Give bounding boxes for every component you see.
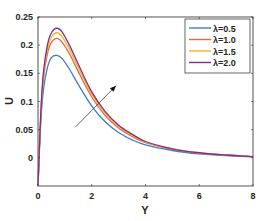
y-tick-label: 0.2 [20,40,33,50]
legend: λ=0.5λ=1.0λ=1.5λ=2.0 [185,19,250,73]
x-tick-label: 0 [35,191,40,201]
x-tick-label: 2 [89,191,94,201]
y-axis-label: U [3,97,15,105]
y-tick-label: 0.1 [20,97,33,107]
legend-entry-label: λ=1.5 [213,47,236,57]
x-tick-label: 4 [143,191,148,201]
legend-entry-label: λ=2.0 [213,58,236,68]
x-tick-label: 8 [250,191,255,201]
y-tick-label: 0 [28,153,33,163]
y-tick-label: 0.05 [15,125,33,135]
x-axis-label: Y [141,204,149,216]
y-tick-label: 0.15 [15,68,33,78]
y-tick-label: 0.25 [15,12,33,22]
legend-entry-label: λ=1.0 [213,35,236,45]
legend-entry-label: λ=0.5 [213,24,236,34]
x-tick-label: 6 [197,191,202,201]
line-chart: 02468 00.050.10.150.20.25 Y U λ=0.5λ=1.0… [0,0,258,221]
